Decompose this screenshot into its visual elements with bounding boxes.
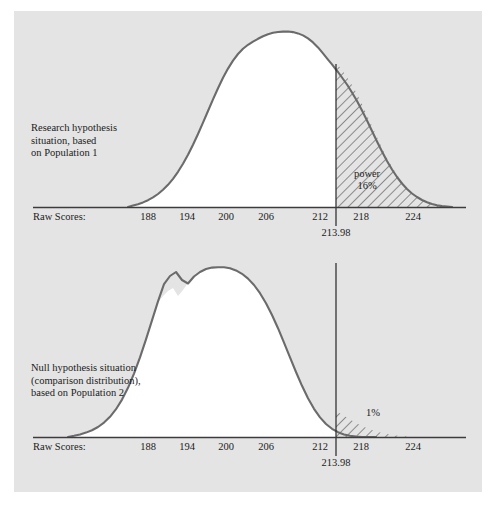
- null-tick-188: 188: [140, 441, 156, 452]
- null-hypothesis-panel: [33, 263, 466, 456]
- power-region-label-line-2: 16%: [354, 180, 380, 192]
- null-hypothesis-caption: Null hypothesis situation (comparison di…: [31, 362, 141, 400]
- distributions-canvas: [0, 0, 500, 509]
- research-caption-line-2: situation, based: [31, 135, 117, 148]
- null-tick-218: 218: [353, 441, 369, 452]
- null-cutoff-value: 213.98: [322, 457, 351, 468]
- research-tick-212: 212: [312, 211, 328, 222]
- research-tick-224: 224: [405, 211, 421, 222]
- research-caption-line-3: on Population 1: [31, 147, 117, 160]
- research-axis-title: Raw Scores:: [33, 211, 86, 222]
- research-tick-200: 200: [218, 211, 234, 222]
- research-tick-188: 188: [140, 211, 156, 222]
- null-tick-200: 200: [218, 441, 234, 452]
- research-power-region: [330, 55, 465, 213]
- null-tick-206: 206: [258, 441, 274, 452]
- null-tick-224: 224: [405, 441, 421, 452]
- research-curve-fill: [128, 32, 452, 208]
- significance-region-label: 1%: [366, 407, 380, 419]
- research-caption-line-1: Research hypothesis: [31, 122, 117, 135]
- research-tick-218: 218: [353, 211, 369, 222]
- research-hypothesis-caption: Research hypothesis situation, based on …: [31, 122, 117, 160]
- null-tick-194: 194: [179, 441, 195, 452]
- null-caption-line-3: based on Population 2: [31, 387, 141, 400]
- null-caption-line-1: Null hypothesis situation: [31, 362, 141, 375]
- null-axis-title: Raw Scores:: [33, 441, 86, 452]
- significance-region-label-line-1: 1%: [366, 407, 380, 419]
- null-caption-line-2: (comparison distribution),: [31, 375, 141, 388]
- research-tick-206: 206: [258, 211, 274, 222]
- null-tick-212: 212: [312, 441, 328, 452]
- research-tick-194: 194: [179, 211, 195, 222]
- power-region-label-line-1: power: [354, 168, 380, 180]
- power-distributions-figure: Research hypothesis situation, based on …: [0, 0, 500, 509]
- research-cutoff-value: 213.98: [322, 227, 351, 238]
- power-region-label: power 16%: [354, 168, 380, 191]
